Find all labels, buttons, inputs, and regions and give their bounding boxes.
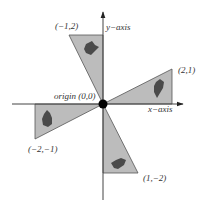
vertex-label-2-1: (2,1)	[178, 65, 195, 75]
vertex-label-neg2-neg1: (−2,−1)	[28, 144, 57, 154]
vertex-label-neg1-2: (−1,2)	[55, 21, 78, 31]
origin-dot	[99, 100, 108, 109]
vertex-label-1-neg2: (1,−2)	[143, 173, 166, 183]
y-axis-label: y−axis	[105, 22, 131, 32]
origin-label: origin (0,0)	[54, 91, 96, 101]
coordinate-diagram: y−axis x−axis origin (0,0) (−1,2) (2,1) …	[0, 0, 209, 207]
x-axis-label: x−axis	[147, 104, 173, 114]
